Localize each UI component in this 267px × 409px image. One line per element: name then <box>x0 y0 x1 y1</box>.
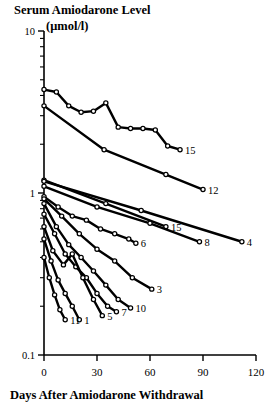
data-point-marker <box>70 304 74 308</box>
series-end-label: 3 <box>157 284 162 295</box>
data-point-marker <box>54 90 58 94</box>
data-point-marker <box>42 87 46 91</box>
data-point-marker <box>42 104 46 108</box>
data-point-marker <box>79 255 83 259</box>
x-tick-label: 0 <box>41 366 47 378</box>
data-point-marker <box>164 172 168 176</box>
data-point-marker <box>98 227 102 231</box>
data-point-marker <box>141 126 145 130</box>
data-point-marker <box>79 110 83 114</box>
data-point-marker <box>95 291 99 295</box>
x-axis: 0306090120 <box>41 355 265 378</box>
data-point-marker <box>128 306 132 310</box>
data-point-marker <box>134 241 138 245</box>
data-point-marker <box>70 214 74 218</box>
x-tick-label: 30 <box>92 366 104 378</box>
data-point-marker <box>113 232 117 236</box>
data-series-group <box>42 87 244 321</box>
data-point-marker <box>201 187 205 191</box>
data-point-marker <box>58 308 62 312</box>
data-point-marker <box>70 252 74 256</box>
data-point-marker <box>150 287 154 291</box>
data-point-marker <box>113 259 117 263</box>
data-point-marker <box>127 237 131 241</box>
data-point-marker <box>139 208 143 212</box>
data-point-marker <box>56 278 60 282</box>
data-point-marker <box>60 214 64 218</box>
y-tick-label: 10 <box>25 26 36 37</box>
data-point-marker <box>54 225 58 229</box>
data-point-marker <box>197 240 201 244</box>
data-point-marker <box>47 276 51 280</box>
x-tick-label: 120 <box>248 366 265 378</box>
data-point-marker <box>240 240 244 244</box>
series-end-label: 7 <box>121 307 126 318</box>
data-point-marker <box>61 263 65 267</box>
data-point-marker <box>42 212 46 216</box>
y-axis: 1010.1 <box>22 26 44 361</box>
data-point-marker <box>63 318 67 322</box>
data-point-marker <box>84 218 88 222</box>
data-point-marker <box>42 225 46 229</box>
data-point-marker <box>95 247 99 251</box>
x-axis-ticks <box>44 355 256 361</box>
series-end-label: 10 <box>136 303 147 314</box>
y-axis-tick-labels: 1010.1 <box>22 26 35 361</box>
data-point-marker <box>95 205 99 209</box>
data-point-marker <box>148 221 152 225</box>
data-point-marker <box>116 297 120 301</box>
data-point-marker <box>42 184 46 188</box>
data-point-marker <box>106 304 110 308</box>
data-point-marker <box>128 126 132 130</box>
series-end-label: 4 <box>247 237 253 248</box>
data-point-marker <box>67 104 71 108</box>
x-tick-label: 90 <box>198 366 210 378</box>
data-point-marker <box>42 179 46 183</box>
data-point-marker <box>42 197 46 201</box>
data-point-marker <box>53 293 57 297</box>
data-point-marker <box>91 297 95 301</box>
data-point-marker <box>77 232 81 236</box>
series-end-label: 15 <box>185 145 196 156</box>
data-point-marker <box>178 148 182 152</box>
data-point-marker <box>63 291 67 295</box>
chart-figure: Serum Amiodarone Level (μmol/l) Days Aft… <box>0 0 267 409</box>
y-tick-label: 1 <box>30 188 35 199</box>
series-end-label: 15 <box>171 222 182 233</box>
data-point-marker <box>102 148 106 152</box>
data-point-marker <box>104 283 108 287</box>
data-point-marker <box>166 144 170 148</box>
series-end-label: 1 <box>84 315 89 326</box>
series-end-label: 8 <box>204 237 209 248</box>
data-point-marker <box>104 202 108 206</box>
data-point-marker <box>42 255 46 259</box>
data-point-marker <box>81 276 85 280</box>
data-point-marker <box>51 249 55 253</box>
data-point-marker <box>116 125 120 129</box>
data-point-marker <box>63 252 67 256</box>
plot-area: 1010.1 0306090120 15121548631075111 <box>0 0 267 409</box>
series-end-label: 6 <box>141 238 146 249</box>
series-end-label: 5 <box>107 311 112 322</box>
data-point-marker <box>130 276 134 280</box>
data-point-marker <box>114 310 118 314</box>
data-point-marker <box>104 101 108 105</box>
x-tick-label: 60 <box>145 366 157 378</box>
data-point-marker <box>56 205 60 209</box>
data-point-marker <box>42 202 46 206</box>
data-point-marker <box>49 259 53 263</box>
x-axis-tick-labels: 0306090120 <box>41 366 265 378</box>
data-point-marker <box>53 232 57 236</box>
data-point-marker <box>153 128 157 132</box>
data-point-marker <box>42 237 46 241</box>
data-point-marker <box>91 269 95 273</box>
data-point-marker <box>91 109 95 113</box>
series-end-label: 11 <box>70 315 80 326</box>
series-end-label: 12 <box>208 185 219 196</box>
data-point-marker <box>100 314 104 318</box>
y-tick-label: 0.1 <box>22 350 35 361</box>
data-point-marker <box>67 243 71 247</box>
